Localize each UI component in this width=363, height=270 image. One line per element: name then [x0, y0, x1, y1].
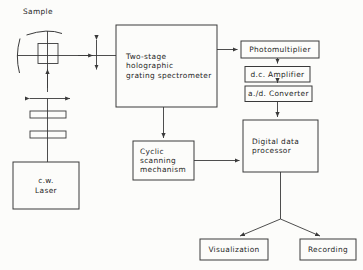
sample-cell [38, 44, 58, 64]
digital-data-processor-label: Digital data processor [252, 120, 318, 172]
cw-laser-label: c.w. Laser [13, 162, 79, 209]
ad-converter-label: a./d. Converter [245, 86, 312, 102]
dc-amplifier-label: d.c. Amplifier [245, 67, 310, 83]
cyclic-scanning-label: Cyclic scanning mechanism [140, 141, 194, 180]
photomultiplier-label: Photomultiplier [241, 41, 319, 58]
conn-processor-recording [281, 219, 321, 236]
focusing-lens-lower [30, 131, 66, 138]
conn-processor-visualization [240, 219, 281, 236]
spectrometer-label: Two-stage holographic grating spectromet… [124, 25, 216, 107]
recording-label: Recording [300, 239, 356, 260]
focusing-lens-upper [30, 111, 66, 118]
diagram-canvas: Sample Two-stage holographic grating spe… [0, 0, 363, 270]
visualization-label: Visualization [200, 239, 268, 260]
curved-collection-mirror [27, 31, 63, 35]
